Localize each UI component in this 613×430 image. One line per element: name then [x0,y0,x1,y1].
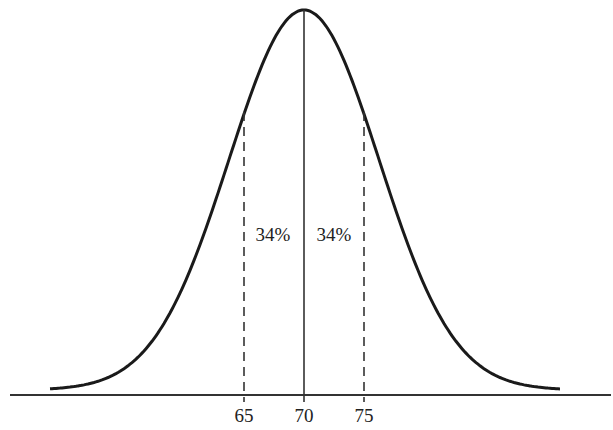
tick-label-75: 75 [355,405,374,427]
left-percent-label: 34% [256,224,291,246]
tick-label-65: 65 [235,405,254,427]
normal-curve-chart [0,0,613,430]
right-percent-label: 34% [317,224,352,246]
bell-curve [50,10,560,389]
tick-label-70: 70 [295,405,314,427]
